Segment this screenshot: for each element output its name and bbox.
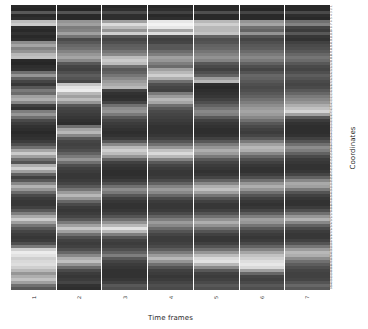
x-axis-tick-label: 5 (214, 296, 219, 299)
y-axis-tick: 95 (331, 287, 344, 290)
y-axis-title: Coordinates (346, 5, 360, 290)
y-axis-tick-label: 1 (331, 5, 334, 7)
x-axis-tick: 7 (284, 291, 330, 311)
heatmap-row (11, 287, 330, 290)
x-axis-tick: 3 (102, 291, 148, 311)
heatmap-cell (11, 287, 57, 290)
y-axis-tick-labels: 1234567891011121314151617181920212223242… (331, 5, 344, 290)
y-axis-tick-label: 95 (331, 285, 334, 288)
x-axis-tick-labels: 1234567 (11, 291, 330, 311)
x-axis-title: Time frames (0, 314, 341, 322)
heatmap-plot-area (11, 5, 330, 290)
x-axis-tick: 1 (11, 291, 57, 311)
y-axis-tick-label: 4 (331, 14, 334, 16)
x-axis-tick-label: 7 (305, 296, 310, 299)
x-axis-tick-label: 6 (259, 296, 264, 299)
y-axis-tick-label: 3 (331, 11, 334, 13)
y-axis-tick-label: 2 (331, 8, 334, 10)
heatmap-cell (285, 287, 330, 290)
heatmap-cell (194, 287, 240, 290)
heatmap-cell (57, 287, 103, 290)
x-axis-tick: 6 (239, 291, 285, 311)
x-axis-tick-label: 1 (31, 296, 36, 299)
heatmap-cell (148, 287, 194, 290)
x-axis-tick: 4 (148, 291, 194, 311)
x-axis-tick-label: 3 (122, 296, 127, 299)
y-axis-tick-label: 6 (331, 20, 334, 22)
heatmap-figure: 1234567 Time frames 12345678910111213141… (0, 0, 368, 329)
heatmap-cell (102, 287, 148, 290)
x-axis-tick-label: 4 (168, 296, 173, 299)
x-axis-tick: 2 (57, 291, 103, 311)
y-axis-tick-label: 8 (331, 26, 334, 28)
x-axis-tick: 5 (193, 291, 239, 311)
heatmap-cell (240, 287, 286, 290)
y-axis-title-text: Coordinates (349, 126, 357, 169)
x-axis-tick-label: 2 (77, 296, 82, 299)
y-axis-tick-label: 5 (331, 17, 334, 19)
y-axis-tick-label: 7 (331, 23, 334, 25)
